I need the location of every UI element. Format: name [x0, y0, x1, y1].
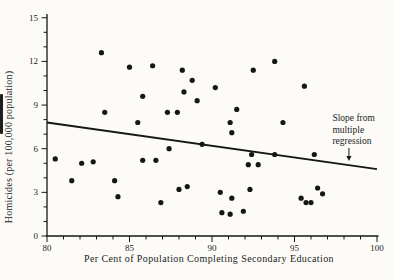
regression-line: [47, 123, 377, 170]
data-point: [167, 146, 172, 151]
data-point: [234, 107, 239, 112]
y-tick-label: 12: [29, 56, 38, 66]
data-point: [99, 50, 104, 55]
data-point: [150, 63, 155, 68]
data-point: [153, 158, 158, 163]
data-point: [165, 110, 170, 115]
x-tick-label: 100: [370, 243, 384, 253]
annotation-arrowhead: [346, 156, 351, 161]
data-point: [69, 178, 74, 183]
data-point: [228, 120, 233, 125]
annotation-line: regression: [332, 136, 371, 146]
data-point: [127, 65, 132, 70]
data-point: [140, 94, 145, 99]
x-tick-label: 85: [125, 243, 135, 253]
data-point: [247, 187, 252, 192]
y-tick-label: 3: [34, 187, 39, 197]
data-point: [218, 190, 223, 195]
data-point: [249, 152, 254, 157]
data-point: [79, 161, 84, 166]
data-point: [200, 142, 205, 147]
data-point: [320, 191, 325, 196]
data-point: [112, 178, 117, 183]
data-point: [185, 184, 190, 189]
data-point: [102, 110, 107, 115]
data-point: [158, 200, 163, 205]
data-point: [272, 59, 277, 64]
x-tick-label: 80: [43, 243, 53, 253]
data-point: [299, 196, 304, 201]
y-tick-label: 0: [34, 231, 39, 241]
data-point: [280, 120, 285, 125]
data-point: [303, 200, 308, 205]
data-point: [91, 159, 96, 164]
data-point: [135, 120, 140, 125]
y-tick-label: 9: [34, 100, 39, 110]
scanned-book-page: Education and Crime 8085909510003691215P…: [0, 0, 395, 280]
data-point: [229, 196, 234, 201]
data-point: [180, 68, 185, 73]
data-point: [251, 68, 256, 73]
data-point: [241, 209, 246, 214]
y-tick-label: 6: [34, 144, 39, 154]
data-point: [140, 158, 145, 163]
data-point: [195, 98, 200, 103]
data-point: [272, 152, 277, 157]
data-point: [190, 78, 195, 83]
data-point: [176, 187, 181, 192]
data-point: [181, 89, 186, 94]
data-point: [256, 162, 261, 167]
data-point: [302, 84, 307, 89]
data-point: [115, 194, 120, 199]
data-point: [175, 110, 180, 115]
data-point: [312, 152, 317, 157]
data-point: [308, 200, 313, 205]
y-axis-title: Homicides (per 100,000 population): [3, 71, 15, 223]
y-tick-label: 15: [29, 13, 39, 23]
data-point: [228, 212, 233, 217]
annotation-line: Slope from: [332, 113, 375, 123]
homicide-education-scatter-chart: 8085909510003691215Per Cent of Populatio…: [0, 0, 395, 280]
x-axis-title: Per Cent of Population Completing Second…: [84, 253, 334, 264]
data-point: [229, 130, 234, 135]
data-point: [53, 156, 58, 161]
data-point: [315, 185, 320, 190]
data-point: [219, 210, 224, 215]
x-tick-label: 90: [208, 243, 218, 253]
annotation-line: multiple: [332, 125, 364, 135]
data-point: [213, 85, 218, 90]
x-tick-label: 95: [290, 243, 300, 253]
data-point: [246, 162, 251, 167]
